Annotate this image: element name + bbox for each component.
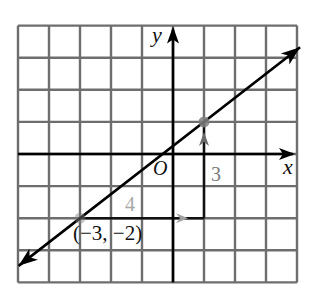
point-label: (−3, −2) [73,223,142,244]
origin-label: O [153,158,167,178]
rise-run-segments [80,122,209,223]
rise-label: 3 [211,164,221,184]
axes [18,27,295,283]
y-axis-label: y [152,24,162,46]
run-label: 4 [125,194,135,214]
plotted-point [199,116,210,127]
x-axis-label: x [283,156,293,178]
